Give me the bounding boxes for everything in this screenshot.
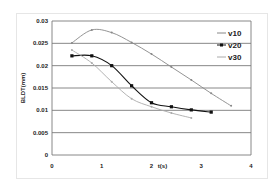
y-axis-label: BLDT(mm): [20, 73, 26, 104]
legend-marker: [220, 44, 223, 47]
data-point: [131, 41, 133, 43]
data-point: [170, 66, 172, 68]
data-point: [110, 64, 113, 67]
x-tick-label: 4: [249, 163, 253, 169]
data-point: [150, 101, 153, 104]
y-tick-label: 0.03: [36, 18, 48, 24]
data-point: [151, 53, 153, 55]
y-tick-label: 0: [45, 152, 49, 158]
data-point: [210, 111, 213, 114]
x-tick-label: 3: [200, 163, 204, 169]
x-tick-label: 2: [150, 163, 154, 169]
legend: v10v20v30: [217, 29, 242, 62]
data-point: [131, 98, 133, 100]
y-tick-label: 0.015: [33, 85, 49, 91]
series-lines: [70, 29, 232, 119]
legend-label-v30: v30: [228, 53, 242, 62]
line-chart: 00.0050.010.0150.020.0250.03 01234 BLDT(…: [0, 0, 277, 188]
y-tick-label: 0.01: [36, 107, 48, 113]
data-point: [90, 54, 93, 57]
data-point: [190, 108, 193, 111]
x-tick-label: 1: [100, 163, 104, 169]
gridlines: [52, 21, 251, 155]
data-point: [170, 105, 173, 108]
data-point: [170, 112, 172, 114]
legend-label-v10: v10: [228, 29, 242, 38]
y-axis-ticks: 00.0050.010.0150.020.0250.03: [33, 18, 49, 158]
data-point: [71, 49, 73, 51]
data-point: [190, 117, 192, 119]
legend-label-v20: v20: [228, 41, 242, 50]
data-point: [91, 29, 93, 31]
data-point: [230, 105, 232, 107]
data-point: [111, 32, 113, 34]
series-line-v10: [72, 29, 231, 106]
series-line-v30: [72, 50, 191, 118]
x-axis-ticks: 01234: [50, 163, 253, 169]
data-point: [91, 62, 93, 64]
data-point: [111, 81, 113, 83]
data-point: [70, 54, 73, 57]
x-axis-label: t(s): [158, 163, 167, 169]
y-tick-label: 0.025: [33, 40, 49, 46]
y-tick-label: 0.005: [33, 130, 49, 136]
data-point: [151, 106, 153, 108]
data-point: [71, 42, 73, 44]
data-point: [210, 92, 212, 94]
x-tick-label: 0: [50, 163, 54, 169]
y-tick-label: 0.02: [36, 63, 48, 69]
data-point: [190, 79, 192, 81]
data-point: [130, 84, 133, 87]
